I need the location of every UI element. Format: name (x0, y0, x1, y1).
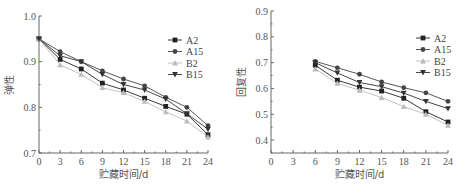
x-tick-label: 0 (37, 156, 42, 167)
x-tick-label: 9 (335, 156, 340, 167)
circle-marker-icon (401, 85, 406, 90)
x-tick-label: 24 (443, 156, 453, 167)
triangle-down-marker-icon (205, 127, 211, 132)
x-tick-label: 3 (291, 156, 296, 167)
y-tick-label: 0.6 (256, 83, 269, 94)
circle-marker-icon (173, 49, 178, 54)
y-tick-label: 0.7 (24, 148, 37, 159)
x-tick-label: 6 (313, 156, 318, 167)
y-axis-title: 回复性 (235, 67, 247, 97)
circle-marker-icon (421, 47, 426, 52)
y-tick-label: 0.9 (24, 56, 37, 67)
x-tick-label: 3 (58, 156, 63, 167)
legend-label-b2: B2 (186, 58, 198, 69)
series-b2 (312, 66, 451, 128)
square-marker-icon (401, 96, 406, 101)
circle-marker-icon (335, 65, 340, 70)
triangle-up-marker-icon (184, 118, 190, 123)
legend: A2A15B2B15 (168, 35, 203, 81)
triangle-down-marker-icon (142, 88, 148, 93)
x-tick-label: 9 (100, 156, 105, 167)
triangle-down-marker-icon (401, 91, 407, 96)
charts-canvas: 036912151821240.70.80.91.0贮藏时间/d弹性A2A15B… (0, 0, 463, 188)
x-tick-label: 12 (119, 156, 129, 167)
y-tick-label: 0.8 (24, 102, 37, 113)
circle-marker-icon (446, 99, 451, 104)
x-tick-label: 0 (269, 156, 274, 167)
triangle-down-marker-icon (99, 72, 105, 77)
legend-label-b15: B15 (186, 69, 203, 80)
y-tick-label: 0.4 (256, 135, 269, 146)
square-marker-icon (163, 104, 168, 109)
resilience-chart: 036912151821240.40.50.60.70.80.9贮藏时间/d回复… (235, 6, 453, 181)
legend-label-b2: B2 (434, 56, 446, 67)
circle-marker-icon (121, 77, 126, 82)
x-tick-label: 15 (140, 156, 150, 167)
x-tick-label: 18 (399, 156, 409, 167)
x-tick-label: 24 (203, 156, 213, 167)
legend-label-a2: A2 (434, 33, 446, 44)
circle-marker-icon (142, 83, 147, 88)
x-axis-title: 贮藏时间/d (99, 168, 149, 180)
y-tick-label: 0.9 (256, 6, 269, 17)
circle-marker-icon (58, 49, 63, 54)
y-tick-label: 0.8 (256, 31, 269, 42)
square-marker-icon (173, 38, 178, 43)
y-axis-title: 弹性 (3, 75, 15, 95)
elasticity-chart: 036912151821240.70.80.91.0贮藏时间/d弹性A2A15B… (3, 11, 213, 181)
triangle-down-marker-icon (334, 71, 340, 76)
triangle-up-marker-icon (163, 109, 169, 114)
triangle-down-marker-icon (445, 106, 451, 111)
x-tick-label: 6 (79, 156, 84, 167)
y-tick-label: 1.0 (24, 11, 37, 22)
x-axis-title: 贮藏时间/d (335, 168, 385, 180)
circle-marker-icon (357, 72, 362, 77)
triangle-up-marker-icon (99, 85, 105, 90)
series-b15 (312, 60, 451, 111)
legend-label-a15: A15 (186, 46, 203, 57)
square-marker-icon (79, 67, 84, 72)
legend-label-a15: A15 (434, 44, 451, 55)
legend-label-b15: B15 (434, 67, 451, 78)
x-tick-label: 21 (182, 156, 192, 167)
legend: A2A15B2B15 (416, 33, 451, 79)
circle-marker-icon (184, 105, 189, 110)
legend-label-a2: A2 (186, 35, 198, 46)
triangle-up-marker-icon (401, 104, 407, 109)
y-tick-label: 0.7 (256, 57, 269, 68)
x-tick-label: 12 (355, 156, 365, 167)
x-tick-label: 18 (161, 156, 171, 167)
square-marker-icon (421, 36, 426, 41)
triangle-up-marker-icon (78, 72, 84, 77)
circle-marker-icon (379, 80, 384, 85)
x-tick-label: 21 (421, 156, 431, 167)
x-tick-label: 15 (377, 156, 387, 167)
triangle-down-marker-icon (163, 97, 169, 102)
y-tick-label: 0.5 (256, 109, 269, 120)
circle-marker-icon (423, 90, 428, 95)
